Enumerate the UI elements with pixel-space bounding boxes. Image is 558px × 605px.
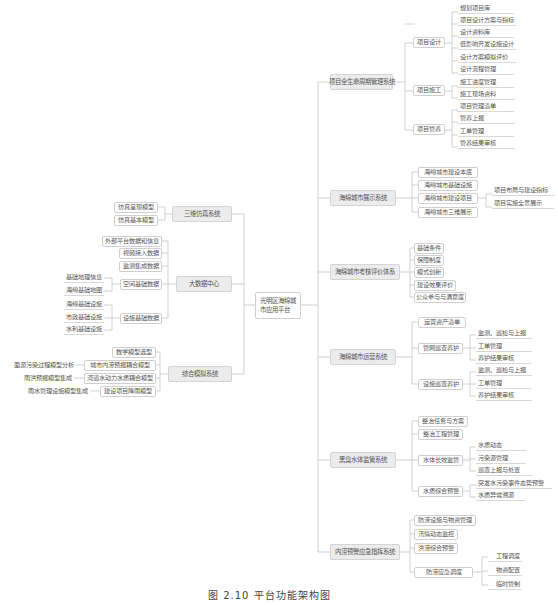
leaf-item[interactable]: 施工现场资料: [458, 90, 514, 100]
node-basic-conditions[interactable]: 基础条件: [414, 243, 444, 254]
branch-operations-system[interactable]: 海绵城市运营系统: [330, 349, 396, 365]
leaf-item[interactable]: 规划项目库: [458, 4, 514, 14]
leaf-item[interactable]: 工程调度: [488, 552, 522, 562]
node-flood-warning[interactable]: 洪涝综合预警: [414, 543, 458, 554]
node-monitoring-data[interactable]: 监测集成数据: [119, 261, 162, 272]
branch-3d-simulation[interactable]: 三维仿真系统: [172, 206, 232, 222]
leaf-item[interactable]: 面源污染过程模型分析: [6, 360, 76, 370]
branch-sponge-city-display[interactable]: 海绵城市展示系统: [330, 190, 396, 206]
node-long-term-supervision[interactable]: 水体长效监管: [418, 455, 463, 466]
leaf-item[interactable]: 养护结果审核: [476, 354, 532, 364]
leaf-item[interactable]: 项目布局与建设指标: [492, 186, 554, 196]
leaf-item[interactable]: 设计流程管理: [458, 65, 514, 75]
leaf-item[interactable]: 施工进度管理: [458, 78, 514, 88]
leaf-item[interactable]: 物资配置: [488, 566, 522, 576]
leaf-item[interactable]: 突发水污染事件态势预警: [476, 479, 552, 489]
branch-waterlogging-warning[interactable]: 内涝预警应急指挥系统: [330, 544, 400, 560]
leaf-item[interactable]: 雨水管理设施模型集成: [20, 386, 90, 396]
leaf-item[interactable]: 水质动态: [476, 441, 526, 451]
node-project-rainfall-model[interactable]: 建设项目降雨模型: [100, 386, 156, 397]
leaf-item[interactable]: 海绵基础地图: [64, 286, 104, 296]
leaf-item[interactable]: 养护结果审核: [476, 391, 532, 401]
node-emergency-dispatch[interactable]: 防涝应急调度: [414, 567, 473, 578]
branch-assessment-system[interactable]: 海绵城市考核评价体系: [330, 264, 400, 280]
node-asset-list[interactable]: 运营资产清单: [418, 317, 466, 328]
node-video-data[interactable]: 视频接入数据: [119, 248, 162, 259]
node-external-platform-data[interactable]: 外部平台数据和信息: [102, 236, 162, 247]
node-project-maintenance[interactable]: 项目管养: [413, 124, 445, 135]
node-construction-projects[interactable]: 海绵城市建设项目: [418, 193, 478, 204]
leaf-item[interactable]: 海绵基础设施: [64, 300, 104, 310]
node-pipe-inspection[interactable]: 管网巡查养护: [418, 343, 463, 354]
branch-big-data-center[interactable]: 大数据中心: [176, 276, 232, 292]
node-3d-display[interactable]: 海绵城市三维展示: [418, 207, 478, 218]
leaf-item[interactable]: 雨洪预报模型集成: [14, 373, 74, 383]
node-facility-data[interactable]: 设施基础数据: [120, 313, 162, 324]
leaf-item[interactable]: 管养结果审核: [458, 139, 514, 149]
leaf-item[interactable]: 项目实施全景展示: [492, 199, 554, 209]
node-math-model-selection[interactable]: 数学模型选型: [112, 347, 156, 358]
leaf-item[interactable]: 水利基础设施: [64, 325, 104, 335]
leaf-item[interactable]: 项目管理清单: [458, 102, 514, 112]
node-urban-flood-model[interactable]: 城市内涝预报耦合模型: [84, 360, 156, 371]
node-effect-evaluation[interactable]: 建设效果评价: [414, 280, 456, 291]
branch-black-odorous-water[interactable]: 黑臭水体监管系统: [330, 452, 396, 468]
leaf-item[interactable]: 设计资料库: [458, 28, 514, 38]
leaf-item[interactable]: 工单管理: [476, 379, 532, 389]
node-remediation-tasks[interactable]: 整治任务与方案: [418, 416, 468, 427]
leaf-item[interactable]: 监测、巡检与上报: [476, 366, 532, 376]
node-construction-baseline[interactable]: 海绵城市建设本底: [418, 167, 478, 178]
node-facility-inspection[interactable]: 设施巡查养护: [418, 379, 463, 390]
figure-caption: 图 2.10 平台功能架构图: [208, 587, 331, 602]
leaf-item[interactable]: 项目设计方案与指标: [458, 16, 516, 26]
node-sim-basic-model[interactable]: 仿真基本模型: [114, 215, 158, 226]
leaf-item[interactable]: 水质异常溯源: [476, 491, 526, 501]
leaf-item[interactable]: 管养上报: [458, 114, 514, 124]
leaf-item[interactable]: 巡查上报与处置: [476, 466, 532, 476]
leaf-item[interactable]: 污染源管理: [476, 454, 526, 464]
root-node[interactable]: 光明区海绵城市应用平台: [255, 292, 301, 319]
branch-integrated-simulation[interactable]: 综合模拟系统: [168, 366, 232, 382]
leaf-item[interactable]: 设计方案模拟评价: [458, 53, 516, 63]
leaf-item[interactable]: 监测、巡检与上报: [476, 329, 532, 339]
node-project-design[interactable]: 项目设计: [413, 37, 445, 48]
node-water-quality-warning[interactable]: 水质综合预警: [418, 486, 463, 497]
leaf-item[interactable]: 工单管理: [458, 127, 514, 137]
leaf-item[interactable]: 低影响开发设施设计: [458, 40, 516, 50]
node-project-construction[interactable]: 项目施工: [413, 85, 445, 96]
node-model-innovation[interactable]: 模式创新: [414, 267, 444, 278]
node-spatial-data[interactable]: 空间基础数据: [120, 279, 162, 290]
leaf-item[interactable]: 临时管制: [488, 580, 522, 590]
node-facilities-supplies[interactable]: 防涝设施与物资管理: [414, 515, 476, 526]
node-river-hydro-model[interactable]: 河道水动力水质耦合模型: [84, 373, 156, 384]
leaf-item[interactable]: 工单管理: [476, 342, 532, 352]
mind-map-canvas: 光明区海绵城市应用平台 项目全生命周期管理系统 海绵城市展示系统 海绵城市考核评…: [0, 0, 558, 605]
node-infrastructure[interactable]: 海绵城市基础设施: [418, 180, 478, 191]
node-safeguard-system[interactable]: 保障制度: [414, 255, 444, 266]
node-remediation-projects[interactable]: 整治工程管理: [418, 429, 463, 440]
leaf-item[interactable]: 市政基础设施: [64, 313, 104, 323]
node-sim-presentation-model[interactable]: 仿真呈现模型: [114, 202, 158, 213]
leaf-item[interactable]: 基础地理信息: [64, 273, 104, 283]
node-flood-monitoring[interactable]: 汛情动态监控: [414, 529, 458, 540]
branch-lifecycle-management[interactable]: 项目全生命周期管理系统: [330, 74, 393, 90]
node-public-participation[interactable]: 公众参与与满意度: [414, 292, 466, 303]
